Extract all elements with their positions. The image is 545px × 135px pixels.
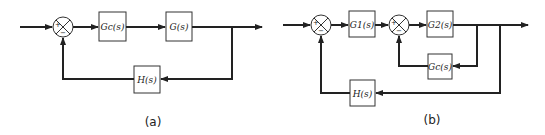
summing-junction-2: + − <box>389 15 409 35</box>
summing-junction-1: + − <box>311 15 331 35</box>
feedback-block: H(s) <box>134 66 160 93</box>
plant-block: G(s) <box>166 12 192 41</box>
inner-feedback-label: Gc(s) <box>428 62 452 72</box>
plus-sign: + <box>313 19 319 27</box>
minus-sign: − <box>396 27 402 35</box>
plant-label: G(s) <box>170 22 189 32</box>
diagram-b: + − G1(s) + − G2(s) Gc(s) <box>283 11 528 127</box>
forward-1-label: G1(s) <box>350 20 375 30</box>
diagram-a: + − Gc(s) G(s) H(s) (a) <box>20 12 262 129</box>
controller-block: Gc(s) <box>99 12 126 41</box>
outer-feedback-block: H(s) <box>350 80 375 106</box>
caption-b: (b) <box>424 113 441 127</box>
outer-feedback-label: H(s) <box>352 89 373 99</box>
outer-feedback-return <box>321 36 350 93</box>
minus-sign: − <box>60 29 66 37</box>
forward-2-label: G2(s) <box>428 20 453 30</box>
plus-sign: + <box>55 21 61 29</box>
inner-feedback-return <box>399 36 428 66</box>
feedback-label: H(s) <box>136 75 157 85</box>
forward-block-1: G1(s) <box>349 11 375 37</box>
caption-a: (a) <box>145 115 162 129</box>
forward-block-2: G2(s) <box>427 11 453 37</box>
inner-feedback-block: Gc(s) <box>428 54 452 79</box>
feedback-return <box>63 38 134 79</box>
inner-feedback-path <box>453 25 477 66</box>
controller-label: Gc(s) <box>101 22 125 32</box>
summing-junction: + − <box>53 17 73 37</box>
plus-sign: + <box>391 19 397 27</box>
minus-sign: − <box>318 27 324 35</box>
